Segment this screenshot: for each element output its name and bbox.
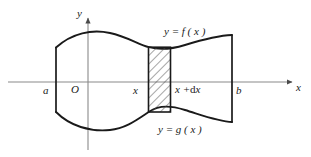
differential-strip (149, 47, 171, 112)
tick-label-b: b (236, 85, 242, 96)
figure-container: y x O a b x x +dx y = f ( x ) y = g ( x … (0, 0, 311, 157)
tick-label-x: x (133, 85, 138, 96)
area-between-curves-figure (0, 0, 311, 157)
tick-label-a: a (43, 85, 49, 96)
lower-curve-g (56, 107, 232, 131)
differential-strip-fill (149, 47, 171, 112)
x-axis-label: x (296, 82, 301, 93)
tick-label-x-plus-dx-prefix: x + (175, 83, 190, 95)
y-axis-label: y (77, 8, 82, 19)
tick-label-x-plus-dx-suffix: x (196, 83, 201, 95)
origin-label: O (71, 84, 79, 95)
upper-curve-f (56, 32, 232, 49)
upper-curve-label: y = f ( x ) (164, 26, 205, 37)
lower-curve-label: y = g ( x ) (158, 124, 202, 135)
tick-label-x-plus-dx: x +dx (175, 84, 200, 95)
